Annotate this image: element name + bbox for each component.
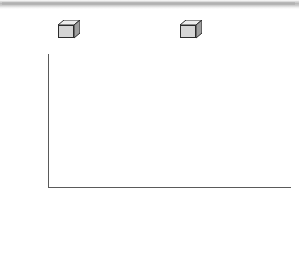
chart-legend [58,20,294,46]
plot-frame [48,54,291,188]
legend-swatch-cube-icon [180,20,202,39]
legend-swatch-cube-icon [58,20,80,39]
legend-swatch-front-face [180,25,196,38]
legend-item-highest-income [180,20,207,39]
legend-swatch-front-face [58,25,74,38]
income-distribution-bar-chart [0,0,299,277]
legend-item-lowest-income [58,20,85,39]
plot-area [48,54,291,188]
